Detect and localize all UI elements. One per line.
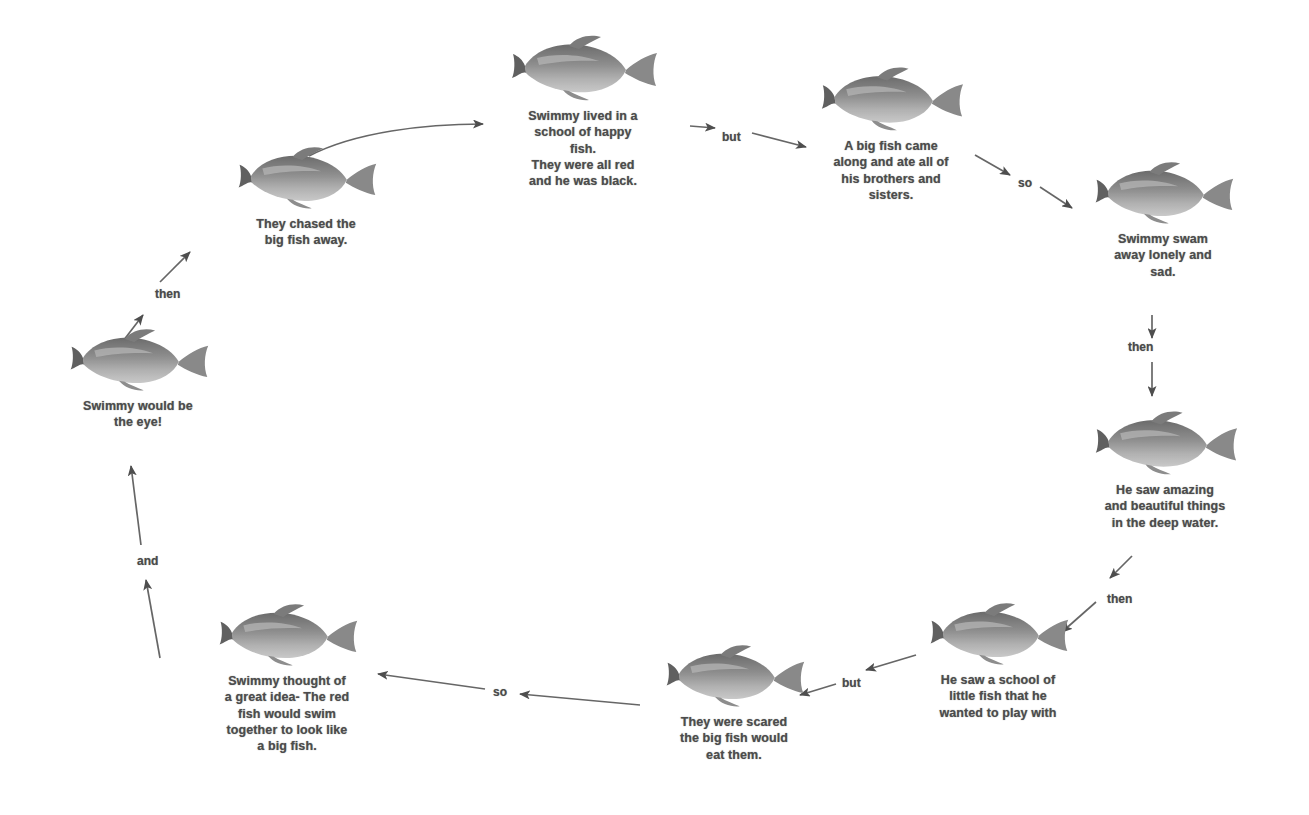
story-node-7[interactable]: Swimmy thought of a great idea- The red … [184,597,390,754]
story-node-8[interactable]: Swimmy would be the eye! [46,322,230,431]
story-node-5[interactable]: He saw a school of little fish that he w… [900,596,1096,721]
node-caption: Swimmy would be the eye! [83,398,193,431]
connector-8-to-9b [160,252,190,282]
story-node-4[interactable]: He saw amazing and beautiful things in t… [1065,404,1265,531]
node-caption: He saw a school of little fish that he w… [939,672,1056,721]
node-caption: He saw amazing and beautiful things in t… [1105,482,1226,531]
connector-7-to-8b [131,466,141,545]
connector-6-to-7a [520,694,640,705]
fish-icon [212,597,362,671]
story-node-1[interactable]: Swimmy lived in a school of happy fish. … [488,28,678,189]
edge-label-then-3: then [155,287,180,301]
node-caption: Swimmy swam away lonely and sad. [1114,231,1211,280]
fish-icon [1089,155,1237,229]
story-node-9[interactable]: They chased the big fish away. [216,140,396,249]
edge-label-so-1: so [1018,176,1032,190]
story-map-canvas: but so then then but so and then [0,0,1309,815]
connector-7-to-8a [146,580,160,658]
story-node-2[interactable]: A big fish came along and ate all of his… [793,60,989,203]
story-node-6[interactable]: They were scared the big fish would eat … [642,638,826,763]
fish-icon [923,596,1073,670]
edge-label-and: and [137,554,158,568]
fish-icon [231,140,381,214]
node-caption: They were scared the big fish would eat … [680,714,788,763]
node-caption: A big fish came along and ate all of his… [833,138,948,203]
fish-icon [507,28,659,106]
connector-6-to-7b [378,674,485,689]
fish-icon [660,638,808,712]
edge-label-then-1: then [1128,340,1153,354]
edge-label-but-1: but [722,130,741,144]
node-caption: Swimmy thought of a great idea- The red … [225,673,349,754]
fish-icon [1089,404,1241,480]
edge-label-so-2: so [493,685,507,699]
edge-label-but-2: but [842,676,861,690]
connector-2-to-3b [1040,187,1072,208]
connector-1-to-2a [690,126,715,128]
story-node-3[interactable]: Swimmy swam away lonely and sad. [1075,155,1251,280]
edge-label-then-2: then [1107,592,1132,606]
fish-icon [63,322,213,396]
node-caption: Swimmy lived in a school of happy fish. … [528,108,637,189]
fish-icon [817,60,965,136]
node-caption: They chased the big fish away. [256,216,355,249]
connector-4-to-5a [1110,556,1132,578]
